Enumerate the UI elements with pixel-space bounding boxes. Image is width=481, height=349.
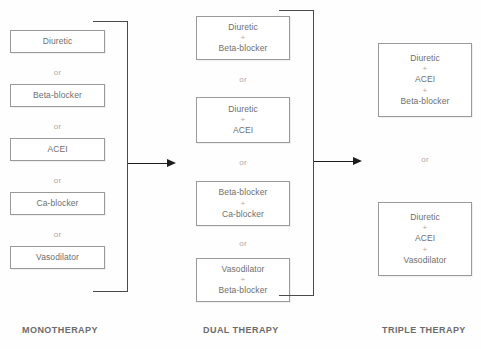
drug-name: Beta-blocker: [401, 96, 450, 108]
drug-name: Ca-blocker: [222, 209, 264, 221]
plus-symbol: +: [241, 115, 246, 125]
drug-name: Vasodilator: [222, 264, 265, 276]
column-caption-triple: TRIPLE THERAPY: [382, 325, 466, 335]
arrow-monotherapy-to-dual-shaft: [128, 163, 168, 164]
option-box-triple-2: Diuretic + ACEI + Vasodilator: [378, 202, 472, 276]
arrow-dual-to-triple-shaft: [314, 161, 354, 162]
drug-name: Diuretic: [410, 212, 440, 224]
drug-name: Diuretic: [410, 53, 440, 65]
arrow-dual-to-triple-head: [353, 157, 362, 165]
plus-symbol: +: [423, 223, 428, 233]
plus-symbol: +: [241, 275, 246, 285]
option-box-dual-1: Diuretic + Beta-blocker: [196, 16, 290, 60]
arrow-monotherapy-to-dual-head: [167, 159, 176, 167]
separator-monotherapy-2: or: [10, 122, 105, 132]
drug-name: Ca-blocker: [36, 198, 78, 210]
separator-monotherapy-1: or: [10, 68, 105, 78]
plus-symbol: +: [241, 33, 246, 43]
separator-triple-1: or: [378, 155, 472, 165]
option-box-monotherapy-4: Ca-blocker: [10, 192, 105, 215]
option-box-monotherapy-1: Diuretic: [10, 30, 105, 53]
separator-dual-1: or: [196, 75, 290, 85]
drug-name: Beta-blocker: [219, 43, 268, 55]
drug-name: Beta-blocker: [219, 187, 268, 199]
column-caption-monotherapy: MONOTHERAPY: [22, 325, 98, 335]
drug-name: ACEI: [415, 74, 435, 86]
drug-name: Diuretic: [43, 36, 73, 48]
separator-monotherapy-4: or: [10, 230, 105, 240]
option-box-triple-1: Diuretic + ACEI + Beta-blocker: [378, 43, 472, 117]
separator-dual-3: or: [196, 239, 290, 249]
option-box-monotherapy-2: Beta-blocker: [10, 84, 105, 107]
bracket-spine-monotherapy: [127, 21, 128, 291]
drug-name: Vasodilator: [36, 252, 79, 264]
drug-name: ACEI: [47, 144, 67, 156]
plus-symbol: +: [423, 245, 428, 255]
bracket-bottom-monotherapy: [93, 291, 128, 292]
bracket-top-monotherapy: [93, 21, 128, 22]
flowchart-canvas: Diuretic or Beta-blocker or ACEI or Ca-b…: [0, 0, 481, 349]
column-caption-dual: DUAL THERAPY: [203, 325, 279, 335]
option-box-dual-4: Vasodilator + Beta-blocker: [196, 258, 290, 302]
option-box-monotherapy-3: ACEI: [10, 138, 105, 161]
separator-monotherapy-3: or: [10, 176, 105, 186]
drug-name: ACEI: [415, 233, 435, 245]
separator-dual-2: or: [196, 158, 290, 168]
drug-name: Diuretic: [228, 104, 258, 116]
option-box-dual-3: Beta-blocker + Ca-blocker: [196, 181, 290, 226]
bracket-bottom-dual: [279, 295, 314, 296]
drug-name: Beta-blocker: [33, 90, 82, 102]
bracket-top-dual: [279, 10, 314, 11]
bracket-spine-dual: [313, 10, 314, 295]
option-box-dual-2: Diuretic + ACEI: [196, 97, 290, 143]
option-box-monotherapy-5: Vasodilator: [10, 246, 105, 269]
plus-symbol: +: [423, 86, 428, 96]
drug-name: Beta-blocker: [219, 285, 268, 297]
drug-name: Diuretic: [228, 22, 258, 34]
plus-symbol: +: [241, 199, 246, 209]
drug-name: ACEI: [233, 125, 253, 137]
drug-name: Vasodilator: [404, 255, 447, 267]
plus-symbol: +: [423, 64, 428, 74]
